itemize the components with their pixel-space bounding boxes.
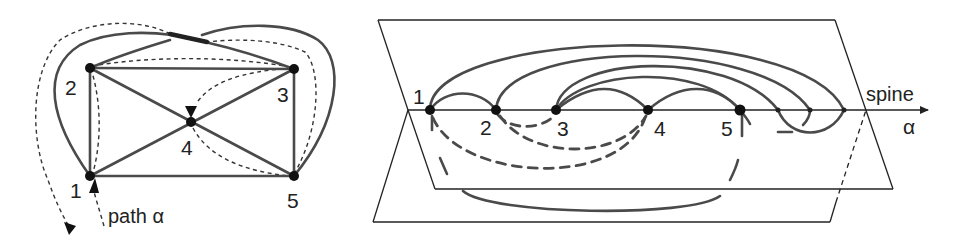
spine-label: spine — [866, 84, 914, 104]
left-vertex-4 — [186, 117, 196, 127]
left-vertex-label-1: 1 — [70, 180, 82, 201]
left-vertex-label-2: 2 — [65, 77, 77, 98]
path-alpha-label: path α — [108, 206, 164, 226]
left-vertex-2 — [85, 63, 95, 73]
path-arrow-down-icon — [64, 222, 76, 235]
spine-vertex-label-3: 3 — [557, 118, 569, 139]
left-vertex-label-5: 5 — [287, 190, 299, 211]
left-vertex-1 — [85, 171, 95, 181]
spine-vertex-label-4: 4 — [654, 118, 666, 139]
left-vertex-label-3: 3 — [277, 84, 289, 105]
spine-vertex-4 — [643, 105, 653, 115]
left-vertex-5 — [289, 171, 299, 181]
left-vertex-label-4: 4 — [181, 137, 193, 158]
spine-vertex-2 — [491, 105, 501, 115]
path-arrow-into-4-icon — [185, 106, 197, 118]
spine-vertex-label-5: 5 — [721, 118, 733, 139]
spine-vertex-1 — [425, 105, 435, 115]
spine-crossing-dot — [776, 108, 781, 113]
upper-arcs — [430, 45, 844, 132]
spine-vertex-label-1: 1 — [413, 86, 425, 107]
spine-vertex-label-2: 2 — [480, 117, 492, 138]
spine-crossing-dot — [842, 108, 847, 113]
spine-vertex-5 — [735, 105, 746, 116]
alpha-axis-label: α — [903, 116, 915, 137]
left-vertex-3 — [289, 64, 299, 74]
spine-crossing-dot — [808, 108, 813, 113]
lower-arcs — [432, 115, 742, 211]
right-book-embedding — [373, 20, 928, 222]
spine-vertex-3 — [551, 105, 561, 115]
